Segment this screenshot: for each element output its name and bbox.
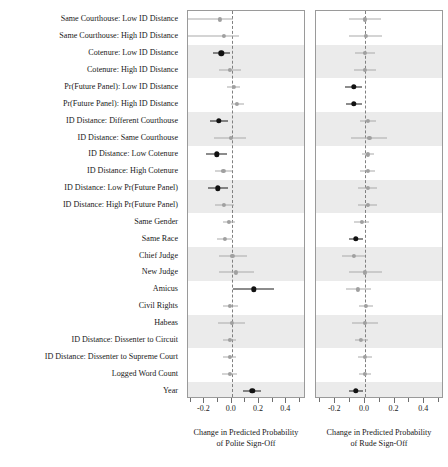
axis-minor-tick <box>349 398 350 402</box>
row-stripe <box>316 62 442 79</box>
row-label: Pr(Future Panel): Low ID Distance <box>64 81 178 90</box>
row-stripe <box>188 112 304 129</box>
estimate-point <box>351 84 356 89</box>
row-label: Pr(Future Panel): High ID Distance <box>63 98 178 107</box>
axis-minor-tick <box>379 398 380 402</box>
row-label: Same Race <box>142 233 178 242</box>
x-axis-title-polite-line1: Change in Predicted Probability <box>179 428 313 439</box>
row-label: Cotenure: Low ID Distance <box>88 48 178 57</box>
axis-minor-tick <box>217 398 218 402</box>
row-label: Habeas <box>154 318 178 327</box>
row-stripe <box>316 382 442 398</box>
axis-major-tick <box>423 398 424 403</box>
x-axis-title-polite-line2: of Polite Sign-Off <box>179 439 313 450</box>
estimate-point <box>218 17 222 21</box>
axis-major-tick <box>334 398 335 403</box>
axis-minor-tick <box>244 398 245 402</box>
axis-major-tick <box>285 398 286 403</box>
row-stripe <box>316 180 442 197</box>
estimate-point <box>363 17 367 21</box>
estimate-point <box>351 101 356 106</box>
row-label: Same Gender <box>134 216 178 225</box>
estimate-point <box>364 34 368 38</box>
row-label: Cotenure: High ID Distance <box>87 65 178 74</box>
estimate-point <box>353 236 358 241</box>
x-axis-title-rude-line2: of Rude Sign-Off <box>307 439 448 450</box>
row-stripe <box>188 315 304 332</box>
estimate-point <box>251 287 256 292</box>
row-label: Logged Word Count <box>112 368 178 377</box>
row-stripe <box>188 197 304 214</box>
row-label: ID Distance: Dissenter to Circuit <box>71 334 178 343</box>
axis-minor-tick <box>408 398 409 402</box>
row-label: Same Courthouse: High ID Distance <box>59 31 178 40</box>
row-label: ID Distance: Low Pr(Future Panel) <box>64 183 178 192</box>
row-label: Chief Judge <box>139 250 178 259</box>
axis-tick-label: 0.4 <box>418 404 428 413</box>
x-axis-title-rude: Change in Predicted Probability of Rude … <box>307 428 448 449</box>
axis-major-tick <box>203 398 204 403</box>
row-label: ID Distance: Low Cotenure <box>88 149 178 158</box>
axis-major-tick <box>231 398 232 403</box>
row-stripe <box>316 315 442 332</box>
row-stripe <box>188 62 304 79</box>
row-label: Civil Rights <box>139 301 178 310</box>
row-label: ID Distance: High Pr(Future Panel) <box>63 200 178 209</box>
estimate-point <box>223 237 227 241</box>
estimate-point <box>356 287 360 291</box>
row-stripe <box>188 332 304 349</box>
estimate-point <box>227 220 231 224</box>
row-label: Year <box>163 385 178 394</box>
row-label: New Judge <box>142 267 178 276</box>
axis-minor-tick <box>438 398 439 402</box>
row-stripe <box>188 129 304 146</box>
x-axis-polite: -0.20.00.20.4 <box>187 398 305 418</box>
axis-major-tick <box>258 398 259 403</box>
estimate-point <box>365 169 369 173</box>
axis-minor-tick <box>190 398 191 402</box>
x-axis-title-rude-line1: Change in Predicted Probability <box>307 428 448 439</box>
estimate-point <box>232 85 236 89</box>
row-stripe <box>188 45 304 62</box>
row-stripe <box>316 332 442 349</box>
axis-major-tick <box>394 398 395 403</box>
axis-major-tick <box>364 398 365 403</box>
confidence-interval-whisker <box>188 36 239 37</box>
row-label: ID Distance: High Cotenure <box>87 166 178 175</box>
axis-tick-label: 0.2 <box>253 404 263 413</box>
x-axis-title-polite: Change in Predicted Probability of Polit… <box>179 428 313 449</box>
estimate-point <box>365 152 369 156</box>
axis-tick-label: 0.0 <box>359 404 369 413</box>
row-label: ID Distance: Dissenter to Supreme Court <box>45 351 178 360</box>
axis-minor-tick <box>319 398 320 402</box>
row-stripe <box>316 112 442 129</box>
axis-tick-label: 0.0 <box>226 404 236 413</box>
estimate-point <box>363 372 367 376</box>
axis-tick-label: -0.2 <box>328 404 341 413</box>
axis-minor-tick <box>299 398 300 402</box>
row-label: ID Distance: Same Courthouse <box>78 132 178 141</box>
row-stripe <box>188 180 304 197</box>
row-label-column: Same Courthouse: Low ID DistanceSame Cou… <box>0 10 182 398</box>
x-axis-rude: -0.20.00.20.4 <box>315 398 443 418</box>
estimate-point <box>360 220 364 224</box>
axis-minor-tick <box>272 398 273 402</box>
estimate-point <box>214 152 219 157</box>
panel-rude-sign-off <box>315 10 443 398</box>
row-label: Amicus <box>153 284 178 293</box>
row-stripe <box>316 197 442 214</box>
row-stripe <box>316 45 442 62</box>
row-label: ID Distance: Different Courthouse <box>66 115 178 124</box>
row-stripe <box>316 247 442 264</box>
axis-tick-label: -0.2 <box>197 404 210 413</box>
axis-tick-label: 0.4 <box>280 404 290 413</box>
estimate-point <box>363 355 367 359</box>
panel-polite-sign-off <box>187 10 305 398</box>
axis-tick-label: 0.2 <box>389 404 399 413</box>
confidence-interval-whisker <box>188 19 233 20</box>
estimate-point <box>364 304 368 308</box>
coefficient-plot-figure: Same Courthouse: Low ID DistanceSame Cou… <box>0 0 448 467</box>
row-label: Same Courthouse: Low ID Distance <box>61 14 178 23</box>
estimate-point <box>235 102 239 106</box>
estimate-point <box>222 34 226 38</box>
